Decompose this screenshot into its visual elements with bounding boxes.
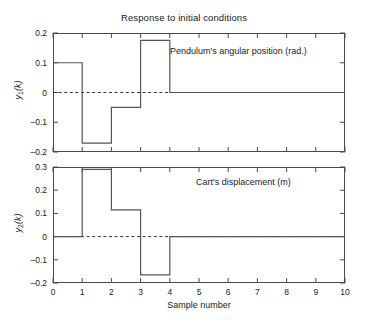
axis-label-x: Sample number [53,300,345,310]
xtick-label: 0 [51,287,56,297]
xtick-label: 9 [313,287,318,297]
xtick-label: 4 [167,287,172,297]
ytick-label: 0 [1,232,47,242]
plot-svg-y2 [0,0,368,330]
ytick-label: –0.2 [1,278,47,288]
xtick-label: 7 [255,287,260,297]
xtick-label: 1 [80,287,85,297]
xtick-label: 2 [109,287,114,297]
figure-canvas: Response to initial conditions y1(k) Pen… [0,0,368,330]
ytick-label: 0.3 [1,162,47,172]
ytick-label: 0.2 [1,185,47,195]
panel-y2: y2(k) Cart's displacement (m) Sample num… [0,0,368,330]
annotation-cart: Cart's displacement (m) [196,177,291,187]
xtick-label: 10 [340,287,349,297]
ytick-label: 0.1 [1,208,47,218]
axis-label-y2-sub: 2 [17,224,24,228]
xtick-label: 6 [226,287,231,297]
xtick-label: 3 [138,287,143,297]
xtick-label: 8 [284,287,289,297]
xtick-label: 5 [197,287,202,297]
ytick-label: –0.1 [1,255,47,265]
